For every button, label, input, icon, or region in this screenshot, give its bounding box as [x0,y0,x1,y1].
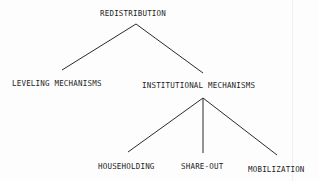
node-leveling-mechanisms: LEVELING MECHANISMS [12,79,102,87]
node-redistribution: REDISTRIBUTION [100,9,166,17]
edge-redistribution-to-institutional [136,24,203,73]
edge-institutional-to-householding [128,98,203,152]
node-householding: HOUSEHOLDING [98,162,155,170]
edge-institutional-to-mobilization [203,98,277,155]
edge-redistribution-to-leveling [62,24,136,70]
node-mobilization: MOBILIZATION [248,165,305,173]
node-share-out: SHARE-OUT [181,162,223,170]
redistribution-tree-diagram: REDISTRIBUTION LEVELING MECHANISMS INSTI… [0,0,319,181]
node-institutional-mechanisms: INSTITUTIONAL MECHANISMS [142,81,255,89]
tree-edges [0,0,319,181]
